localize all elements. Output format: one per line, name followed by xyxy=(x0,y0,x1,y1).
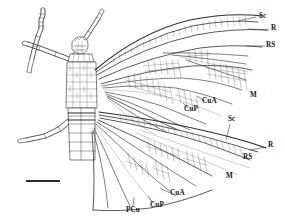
label-sc-forewing: Sc xyxy=(259,13,266,20)
forewing xyxy=(95,15,268,134)
hindwing-crossvein-field-b xyxy=(184,150,207,172)
label-m-forewing: M xyxy=(250,92,257,99)
hindwing-crossvein-field-d xyxy=(153,160,170,182)
forewing-crossvein-field-a xyxy=(143,60,181,77)
insect-wing-venation-figure: Sc R RS M CuA CuP Sc R RS M CuA CuP PCu xyxy=(0,0,285,220)
insect-line-drawing xyxy=(0,0,285,220)
scale-bar-line xyxy=(26,180,60,182)
label-rs-forewing: RS xyxy=(266,42,275,49)
label-r-forewing: R xyxy=(271,25,276,32)
forewing-crossvein-field-d xyxy=(126,73,173,104)
label-cup-hindwing: CuP xyxy=(150,202,164,209)
label-pcu-hindwing: PCu xyxy=(126,207,140,214)
label-rs-hindwing: RS xyxy=(243,154,252,161)
label-m-hindwing: M xyxy=(226,173,233,180)
antenna-upper-left xyxy=(27,8,45,74)
hindwing-crossvein-field-a xyxy=(146,139,180,163)
scale-bar xyxy=(26,180,60,182)
label-cua-hindwing: CuA xyxy=(170,190,185,197)
label-cup-forewing: CuP xyxy=(184,106,198,113)
hindwing-crossvein-field-c xyxy=(126,154,149,177)
label-cua-forewing: CuA xyxy=(202,98,217,105)
label-r-hindwing: R xyxy=(268,142,273,149)
label-sc-hindwing: Sc xyxy=(228,116,235,123)
